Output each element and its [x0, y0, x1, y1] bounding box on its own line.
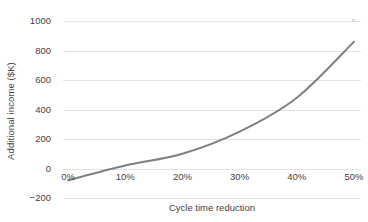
x-axis-tick-label: 50% [334, 172, 368, 182]
x-axis-tick-labels: 0%10%20%30%40%50% [63, 21, 361, 198]
y-axis-tick-label: 400 [5, 105, 51, 115]
y-axis-tick-label: 1000 [5, 16, 51, 26]
scan-artifact-speck [352, 19, 355, 22]
x-axis-tick-label: 10% [105, 172, 145, 182]
chart-container: Additional income ($K) 10008006004002000… [0, 0, 368, 222]
x-axis-tick-label: 30% [220, 172, 260, 182]
gridline [63, 198, 361, 199]
x-axis-tick-label: 0% [48, 172, 88, 182]
x-axis-tick-label: 40% [277, 172, 317, 182]
y-axis-tick-label: 0 [5, 164, 51, 174]
y-axis-tick-label: −200 [5, 193, 51, 203]
y-axis-tick-label: 600 [5, 75, 51, 85]
y-axis-tick-label: 200 [5, 134, 51, 144]
x-axis-title: Cycle time reduction [63, 202, 361, 213]
x-axis-tick-label: 20% [162, 172, 202, 182]
y-axis-tick-label: 800 [5, 46, 51, 56]
